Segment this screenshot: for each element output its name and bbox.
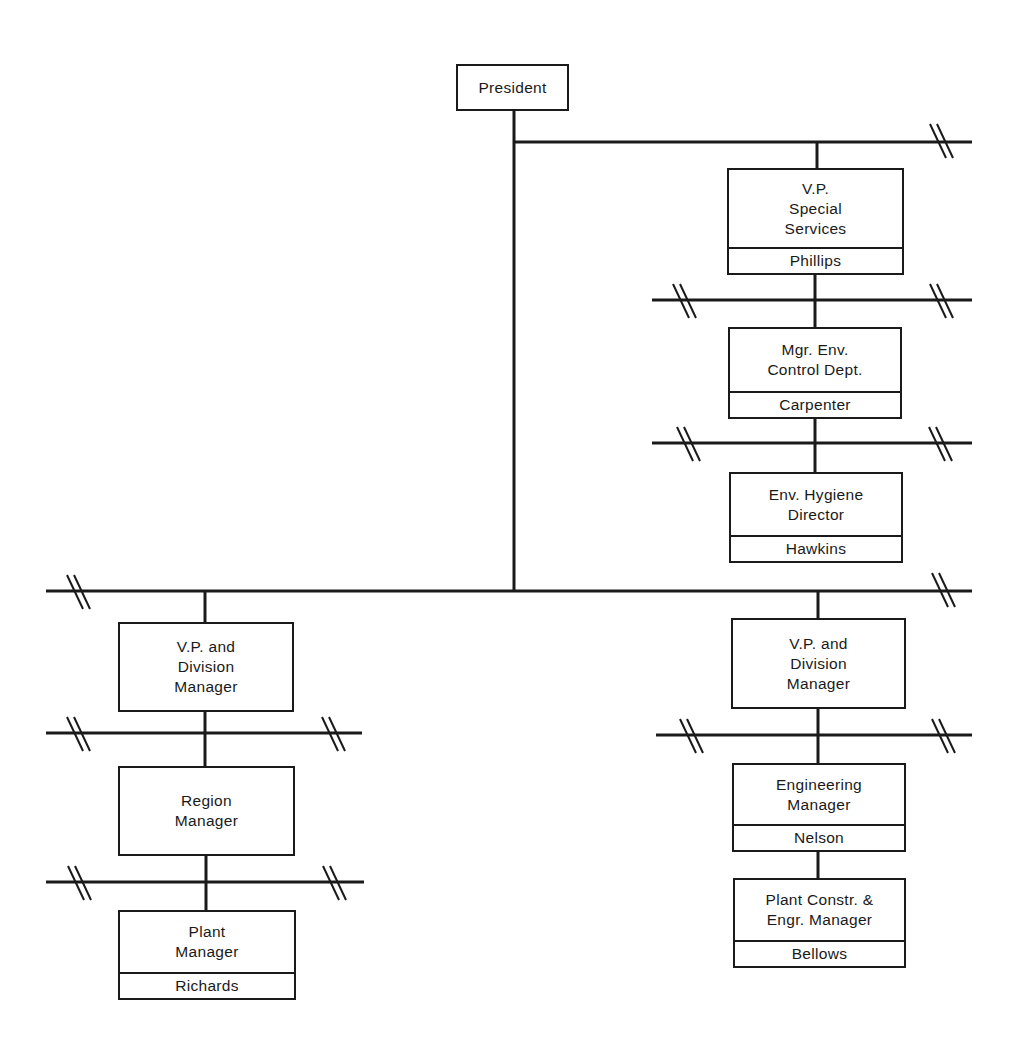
node-vp-division-left: V.P. and Division Manager [118, 622, 294, 712]
node-person-name: Phillips [729, 247, 902, 273]
node-title: Plant Constr. & Engr. Manager [735, 880, 904, 940]
node-president: President [456, 64, 569, 111]
node-title: Engineering Manager [734, 765, 904, 824]
node-title: Env. Hygiene Director [731, 474, 901, 535]
node-title: V.P. and Division Manager [120, 624, 292, 710]
node-person-name: Carpenter [730, 391, 900, 417]
node-title: Plant Manager [120, 912, 294, 972]
node-vp-division-right: V.P. and Division Manager [731, 618, 906, 709]
node-vp-special-services: V.P. Special Services Phillips [727, 168, 904, 275]
node-title: Mgr. Env. Control Dept. [730, 329, 900, 391]
node-title: V.P. Special Services [729, 170, 902, 247]
node-plant-manager: Plant Manager Richards [118, 910, 296, 1000]
node-plant-constr-engr-manager: Plant Constr. & Engr. Manager Bellows [733, 878, 906, 968]
node-person-name: Nelson [734, 824, 904, 850]
node-engineering-manager: Engineering Manager Nelson [732, 763, 906, 852]
node-title: President [458, 66, 567, 109]
node-region-manager: Region Manager [118, 766, 295, 856]
node-title: Region Manager [120, 768, 293, 854]
node-person-name: Hawkins [731, 535, 901, 561]
node-env-hygiene-director: Env. Hygiene Director Hawkins [729, 472, 903, 563]
node-person-name: Richards [120, 972, 294, 998]
node-title: V.P. and Division Manager [733, 620, 904, 707]
node-person-name: Bellows [735, 940, 904, 966]
node-mgr-env-control: Mgr. Env. Control Dept. Carpenter [728, 327, 902, 419]
